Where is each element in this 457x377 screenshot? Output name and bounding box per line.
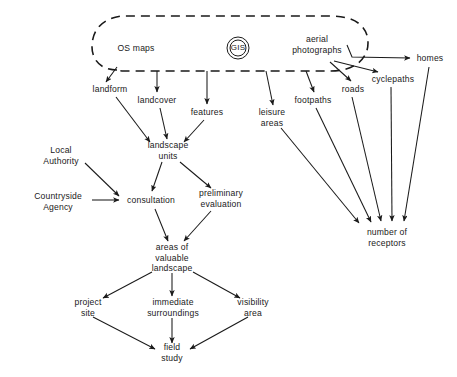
edge-landscapeunits-preliminary [180,162,211,188]
edge-roads-receptors [352,97,381,221]
edge-boundary-footpaths [306,71,314,92]
node-field-study: field study [161,342,182,363]
node-landform: landform [93,84,128,95]
node-local-authority: Local Authority [43,145,78,166]
node-immediate-surroundings: immediate surroundings [147,297,199,318]
edge-leisureareas-receptors [281,128,359,223]
node-landcover: landcover [138,95,177,106]
flow-diagram: GIS OS maps aerial photographs homes cyc… [0,0,457,377]
edge-areasvaluable-projectsite [103,272,152,298]
edge-aerial-cyclepaths [334,61,378,72]
edge-aerial-homes [347,45,410,58]
edge-localauthority-consultation [85,163,119,196]
node-consultation: consultation [127,195,175,206]
node-gis: GIS [231,43,245,54]
node-preliminary-evaluation: preliminary evaluation [199,188,243,209]
node-project-site: project site [75,297,102,318]
edge-landcover-landscapeunits [160,108,167,139]
edge-projectsite-fieldstudy [93,317,155,349]
node-footpaths: footpaths [295,95,332,106]
edge-areasvaluable-visibility [193,272,240,298]
node-aerial-photographs: aerial photographs [292,34,342,55]
node-visibility-area: visibility area [237,297,268,318]
node-leisure-areas: leisure areas [259,107,286,128]
edge-consultation-areasvaluable [155,209,168,241]
edge-landscapeunits-consultation [152,162,162,191]
node-number-of-receptors: number of receptors [367,227,407,248]
node-landscape-units: landscape units [148,140,189,161]
edge-homes-receptors [404,67,429,221]
edge-boundary-leisureareas [266,71,273,105]
node-homes: homes [417,53,444,64]
edge-cyclepaths-receptors [391,87,392,221]
node-features: features [191,107,223,118]
edge-visibility-fieldstudy [190,317,248,349]
node-roads: roads [342,84,364,95]
node-os-maps: OS maps [117,43,154,54]
node-countryside-agency: Countryside Agency [34,191,82,212]
node-cyclepaths: cyclepaths [372,74,414,85]
edge-preliminary-areasvaluable [184,211,211,241]
node-areas-of-valuable-landscape: areas of valuable landscape [152,242,193,274]
